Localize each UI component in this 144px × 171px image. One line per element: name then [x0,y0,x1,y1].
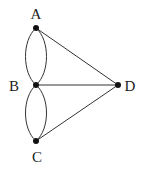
edge-a-b-left [26,28,37,85]
edge-b-c-right [36,85,47,141]
label-b: B [9,78,19,94]
label-c: C [32,149,42,165]
edge-b-c-left [26,85,37,141]
node-b [33,82,39,88]
node-a [33,25,39,31]
label-d: D [125,78,136,94]
node-d [115,82,121,88]
graph-diagram: A B C D [0,0,144,171]
label-a: A [31,6,42,22]
node-c [33,138,39,144]
edge-a-d [36,28,118,85]
edge-c-d [36,85,118,141]
edge-a-b-right [36,28,47,85]
